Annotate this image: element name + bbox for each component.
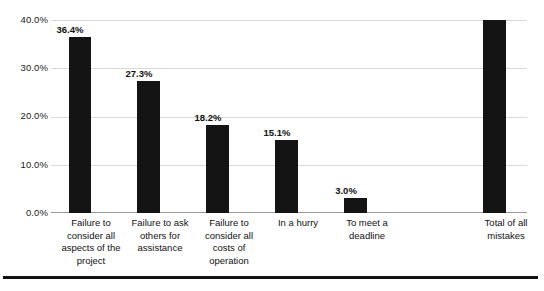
bar-chart: 0.0% 10.0% 20.0% 30.0% 40.0% 36.4% 27.3%… bbox=[0, 0, 544, 291]
x-axis-category-label-4: To meet a deadline bbox=[331, 217, 403, 242]
x-axis-category-label-2: Failure to consider all costs of operati… bbox=[193, 217, 265, 267]
bar-5[interactable] bbox=[483, 20, 506, 213]
y-axis-tick-label: 0.0% bbox=[0, 208, 48, 218]
bar-2[interactable] bbox=[206, 125, 229, 213]
x-axis-category-label-0: Failure to consider all aspects of the p… bbox=[55, 217, 127, 267]
bar-3[interactable] bbox=[275, 140, 298, 213]
bar-4[interactable] bbox=[344, 198, 367, 213]
bar-value-label-4: 3.0% bbox=[325, 186, 367, 196]
gridline-20 bbox=[51, 117, 527, 118]
bar-value-label-0: 36.4% bbox=[49, 25, 91, 35]
y-axis-tick-label: 40.0% bbox=[0, 15, 48, 25]
x-axis-category-label-1: Failure to ask others for assistance bbox=[124, 217, 196, 255]
gridline-40 bbox=[51, 20, 527, 21]
bar-value-label-3: 15.1% bbox=[256, 128, 298, 138]
y-axis-tick-label: 10.0% bbox=[0, 160, 48, 170]
bar-1[interactable] bbox=[137, 81, 160, 213]
x-axis-category-label-3: In a hurry bbox=[262, 217, 334, 230]
y-axis-tick-label: 20.0% bbox=[0, 111, 48, 121]
x-axis-category-label-5: Total of all mistakes bbox=[470, 217, 542, 242]
bar-value-label-2: 18.2% bbox=[187, 113, 229, 123]
plot-area bbox=[51, 20, 527, 213]
bar-value-label-1: 27.3% bbox=[118, 69, 160, 79]
y-axis-tick-label: 30.0% bbox=[0, 63, 48, 73]
bottom-divider-rule bbox=[3, 276, 538, 279]
bar-0[interactable] bbox=[69, 37, 91, 213]
